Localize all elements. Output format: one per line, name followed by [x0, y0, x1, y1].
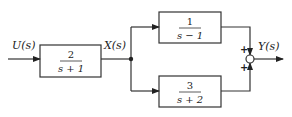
g2-denominator: s − 1: [177, 30, 203, 41]
g3-numerator: 3: [187, 80, 193, 91]
takeoff-point: [129, 57, 133, 61]
g2-numerator: 1: [187, 16, 193, 27]
intermediate-label: X(s): [103, 39, 126, 52]
output-label: Y(s): [258, 40, 280, 53]
block-diagram: U(s) X(s) Y(s) 2 s + 1 1 s − 1 3 s + 2 +…: [0, 0, 292, 117]
g1-numerator: 2: [68, 49, 74, 60]
input-label: U(s): [12, 39, 36, 52]
g3-denominator: s + 2: [177, 94, 203, 105]
g1-denominator: s + 1: [58, 63, 84, 74]
sum-sign-bottom: +: [240, 62, 248, 73]
sum-sign-top: +: [240, 44, 248, 55]
